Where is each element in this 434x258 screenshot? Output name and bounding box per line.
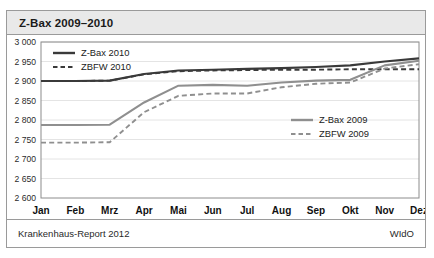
x-axis-tick-label: Apr bbox=[135, 205, 152, 216]
y-axis-tick-label: 2 900 bbox=[14, 76, 36, 86]
y-axis-tick-label: 2 700 bbox=[14, 154, 36, 164]
y-axis-tick-label: 2 650 bbox=[14, 174, 36, 184]
line-chart: 3 0002 9502 9002 8502 8002 7502 7002 650… bbox=[7, 35, 425, 219]
legend-label: ZBFW 2009 bbox=[319, 128, 369, 139]
legend-label: ZBFW 2010 bbox=[81, 61, 131, 72]
footer-source: Krankenhaus-Report 2012 bbox=[18, 228, 129, 239]
x-axis-tick-label: Nov bbox=[375, 205, 394, 216]
y-axis-tick-label: 2 850 bbox=[14, 96, 36, 106]
legend-label: Z-Bax 2009 bbox=[319, 114, 367, 125]
x-axis-tick-label: Mai bbox=[170, 205, 187, 216]
page-title: Z-Bax 2009–2010 bbox=[7, 17, 113, 29]
x-axis-tick-label: Feb bbox=[66, 205, 84, 216]
footer-publisher: WIdO bbox=[390, 228, 414, 239]
x-axis-tick-label: Aug bbox=[272, 205, 291, 216]
y-axis-tick-label: 3 000 bbox=[14, 37, 36, 47]
x-axis-tick-label: Sep bbox=[307, 205, 325, 216]
x-axis-tick-label: Jan bbox=[32, 205, 49, 216]
x-axis-tick-label: Jul bbox=[240, 205, 255, 216]
x-axis-tick-label: Jun bbox=[204, 205, 222, 216]
figure-footer: Krankenhaus-Report 2012 WIdO bbox=[7, 219, 425, 247]
y-axis-tick-label: 2 750 bbox=[14, 135, 36, 145]
x-axis-tick-label: Mrz bbox=[101, 205, 118, 216]
x-axis-tick-label: Dez bbox=[410, 205, 425, 216]
figure-title-bar: Z-Bax 2009–2010 bbox=[7, 11, 425, 35]
legend-label: Z-Bax 2010 bbox=[81, 47, 129, 58]
y-axis-tick-label: 2 600 bbox=[14, 193, 36, 203]
x-axis-tick-label: Okt bbox=[342, 205, 359, 216]
plot-area: 3 0002 9502 9002 8502 8002 7502 7002 650… bbox=[7, 35, 425, 219]
y-axis-tick-label: 2 950 bbox=[14, 57, 36, 67]
y-axis-tick-label: 2 800 bbox=[14, 115, 36, 125]
figure-container: Z-Bax 2009–2010 3 0002 9502 9002 8502 80… bbox=[0, 0, 434, 258]
